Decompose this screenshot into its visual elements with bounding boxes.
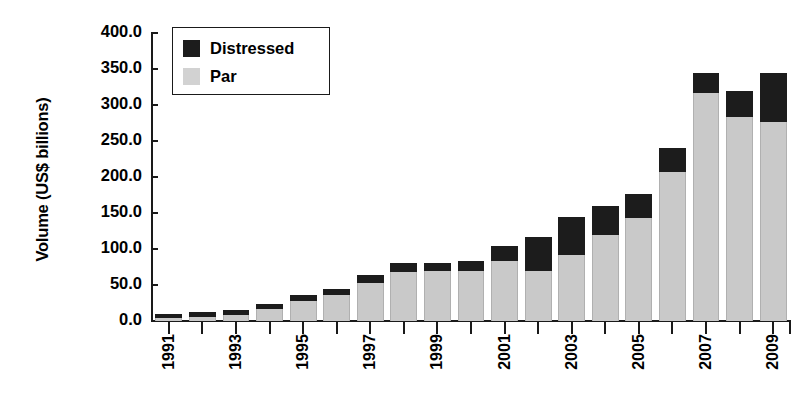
bar-segment-par: [659, 172, 686, 321]
bar-segment-par: [592, 235, 619, 321]
bar-segment-par: [525, 271, 552, 321]
x-tick-mark: [269, 321, 271, 334]
bar-segment-par: [323, 295, 350, 321]
x-tick-label: 2007: [697, 312, 715, 392]
x-tick-mark: [470, 321, 472, 334]
y-tick-label: 300.0: [101, 94, 142, 113]
x-tick-mark: [403, 321, 405, 334]
bar-2008: [726, 91, 753, 321]
bar-2003: [558, 217, 585, 321]
bar-segment-distressed: [189, 312, 216, 317]
bar-segment-distressed: [256, 304, 283, 309]
bar-segment-par: [256, 309, 283, 321]
y-tick-mark: [151, 284, 158, 286]
y-tick-mark: [151, 248, 158, 250]
x-tick-label: 1999: [428, 312, 446, 392]
x-tick-mark: [789, 321, 791, 334]
x-tick-mark: [336, 321, 338, 334]
y-tick-label: 100.0: [101, 238, 142, 257]
bar-segment-par: [693, 93, 720, 321]
bar-segment-par: [625, 218, 652, 321]
bar-2007: [693, 73, 720, 321]
bar-segment-distressed: [525, 237, 552, 271]
y-tick-label: 250.0: [101, 130, 142, 149]
bar-segment-distressed: [659, 148, 686, 172]
bar-segment-distressed: [458, 261, 485, 270]
bar-2001: [491, 246, 518, 321]
bar-segment-par: [726, 117, 753, 321]
legend-item-distressed: Distressed: [183, 34, 329, 62]
y-axis-title: Volume (US$ billions): [33, 50, 52, 310]
bar-segment-distressed: [424, 263, 451, 271]
bar-2009: [760, 73, 787, 321]
y-tick-label: 400.0: [101, 22, 142, 41]
bar-segment-distressed: [323, 289, 350, 295]
x-tick-label: 1997: [361, 312, 379, 392]
bar-1998: [390, 263, 417, 321]
y-tick-mark: [151, 140, 158, 142]
gray-square-icon: [183, 68, 200, 85]
bar-2004: [592, 206, 619, 321]
x-tick-mark: [604, 321, 606, 334]
bar-segment-distressed: [558, 217, 585, 255]
x-tick-label: 1993: [227, 312, 245, 392]
legend-item-par: Par: [183, 62, 329, 90]
x-tick-mark: [537, 321, 539, 334]
bar-2006: [659, 148, 686, 321]
y-tick-mark: [151, 104, 158, 106]
bar-2005: [625, 194, 652, 321]
y-tick-label: 0.0: [119, 310, 142, 329]
x-tick-label: 2005: [630, 312, 648, 392]
bar-segment-par: [760, 122, 787, 321]
x-tick-label: 2009: [764, 312, 782, 392]
chart-legend: Distressed Par: [172, 27, 330, 95]
bar-segment-distressed: [693, 73, 720, 93]
x-tick-label: 1995: [294, 312, 312, 392]
bar-segment-distressed: [760, 73, 787, 122]
bar-segment-par: [458, 271, 485, 321]
x-tick-mark: [671, 321, 673, 334]
y-tick-label: 150.0: [101, 202, 142, 221]
legend-label-distressed: Distressed: [210, 40, 294, 57]
bar-segment-par: [390, 272, 417, 321]
bar-1992: [189, 312, 216, 321]
y-tick-label: 200.0: [101, 166, 142, 185]
x-tick-mark: [739, 321, 741, 334]
x-tick-label: 2001: [496, 312, 514, 392]
bar-segment-distressed: [357, 275, 384, 283]
bar-segment-distressed: [625, 194, 652, 218]
black-square-icon: [183, 40, 200, 57]
bar-2000: [458, 261, 485, 321]
y-tick-mark: [151, 176, 158, 178]
x-tick-label: 2003: [563, 312, 581, 392]
bar-segment-distressed: [491, 246, 518, 261]
bar-2002: [525, 237, 552, 321]
y-tick-mark: [151, 212, 158, 214]
bar-segment-distressed: [726, 91, 753, 118]
bar-segment-distressed: [290, 295, 317, 301]
legend-label-par: Par: [210, 68, 237, 85]
bar-1994: [256, 304, 283, 321]
chart-figure: Volume (US$ billions) 400.0350.0300.0250…: [0, 0, 811, 411]
x-tick-label: 1991: [160, 312, 178, 392]
y-tick-mark: [151, 32, 158, 34]
bar-1996: [323, 289, 350, 321]
bar-segment-distressed: [592, 206, 619, 235]
x-tick-mark: [201, 321, 203, 334]
bar-segment-distressed: [390, 263, 417, 272]
y-tick-label: 350.0: [101, 58, 142, 77]
y-tick-mark: [151, 68, 158, 70]
y-tick-label: 50.0: [110, 274, 142, 293]
